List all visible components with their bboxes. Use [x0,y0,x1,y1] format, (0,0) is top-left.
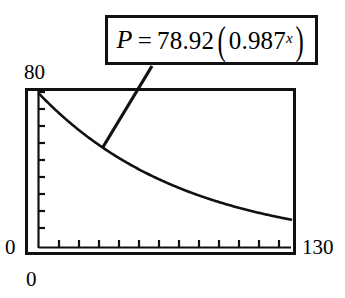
equation-close-paren: ) [295,29,303,54]
x-axis-ticks [59,240,279,248]
equation-exponent: x [286,31,293,46]
y-axis-min-label: 0 [5,237,16,258]
equation-equals-sign: = [134,28,157,53]
equation-variable: P [117,27,134,53]
x-axis-min-label: 0 [26,269,37,290]
exponential-decay-curve [39,94,291,220]
equation-callout-box: P = 78.92 ( 0.987 x ) [105,15,318,65]
equation-coefficient: 78.92 [157,28,214,53]
plot-area [25,88,296,255]
figure-root: P = 78.92 ( 0.987 x ) [0,0,345,298]
equation-text: P = 78.92 ( 0.987 x ) [117,27,307,53]
equation-base: 0.987 [229,28,286,53]
x-axis-max-label: 130 [302,237,334,258]
equation-open-paren: ( [218,29,226,54]
y-axis-max-label: 80 [24,62,45,83]
